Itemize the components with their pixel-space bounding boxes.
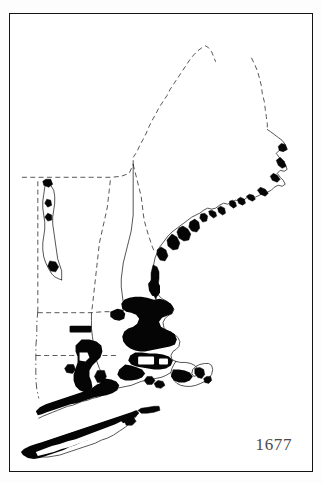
new-hampshire-maine-border	[133, 164, 154, 251]
cape-cod-settlements	[171, 367, 212, 383]
lake-champlain-outposts	[43, 179, 59, 272]
map-year-label: 1677	[256, 436, 292, 453]
merrimack-river	[121, 164, 133, 310]
maine-northeast-border	[251, 58, 267, 130]
vermont-new-hampshire-border	[91, 180, 110, 312]
settlement-areas-group	[21, 143, 287, 459]
inland-massachusetts-town	[70, 326, 92, 333]
maine-atlantic-coast	[153, 129, 287, 271]
maine-coastal-outposts	[157, 143, 287, 260]
map-frame-border: 1677	[9, 13, 313, 472]
new-england-map-graphic	[10, 14, 312, 471]
vermont-quebec-border	[22, 157, 133, 177]
historical-map-figure: 1677	[0, 0, 322, 483]
boston-massachusetts-bay-core	[110, 279, 177, 352]
connecticut-new-york-border	[36, 311, 39, 399]
connecticut-river-valley	[65, 340, 103, 393]
maine-canada-border	[133, 46, 215, 158]
